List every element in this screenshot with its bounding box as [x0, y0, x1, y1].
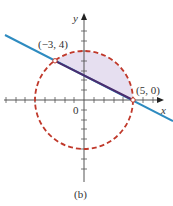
shaded-region	[55, 51, 133, 100]
point-5-0	[131, 98, 135, 102]
point-label-neg3-4: (−3, 4)	[38, 38, 68, 51]
x-axis-label: x	[160, 104, 166, 116]
point-label-5-0: (5, 0)	[136, 84, 160, 97]
figure-caption: (b)	[74, 188, 87, 201]
y-axis-label: y	[72, 12, 78, 24]
origin-label: 0	[73, 104, 79, 116]
y-axis	[81, 13, 87, 182]
point-neg3-4	[53, 59, 57, 63]
figure-canvas: y x 0 (−3, 4) (5, 0) (b)	[0, 0, 173, 206]
